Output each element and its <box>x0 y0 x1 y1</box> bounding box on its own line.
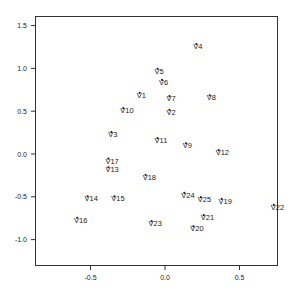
scatter-plot: -1.0-0.50.00.51.01.5 -0.50.00.5 V1V2V3V4… <box>0 0 293 301</box>
data-point: V2 <box>166 108 175 117</box>
data-point: V4 <box>193 42 202 51</box>
point-label: V13 <box>105 165 118 174</box>
data-point: V17 <box>105 157 118 166</box>
data-point: V5 <box>155 67 164 76</box>
data-point: V21 <box>201 213 214 222</box>
data-point: V9 <box>183 141 192 150</box>
data-point: V1 <box>137 91 146 100</box>
data-point: V12 <box>216 148 229 157</box>
data-point: V16 <box>74 216 87 225</box>
point-label: V10 <box>120 106 133 115</box>
point-label: V2 <box>166 108 175 117</box>
y-axis: -1.0-0.50.00.51.01.5 <box>15 22 36 243</box>
data-point: V13 <box>105 165 118 174</box>
data-point: V18 <box>143 173 156 182</box>
point-label: V25 <box>198 195 211 204</box>
point-label: V7 <box>166 94 175 103</box>
y-tick-label: 0.0 <box>17 151 27 158</box>
y-tick-label: -0.5 <box>15 193 27 200</box>
data-point: V11 <box>155 136 168 145</box>
point-label: V21 <box>201 213 214 222</box>
point-label: V19 <box>219 197 232 206</box>
data-point: V22 <box>271 203 284 212</box>
point-label: V11 <box>155 136 168 145</box>
data-point: V7 <box>166 94 175 103</box>
x-tick-label: 0.0 <box>160 274 170 281</box>
data-point: V15 <box>111 194 124 203</box>
point-label: V24 <box>181 191 194 200</box>
data-point: V19 <box>219 197 232 206</box>
data-point: V10 <box>120 106 133 115</box>
data-point: V25 <box>198 195 211 204</box>
point-label: V18 <box>143 173 156 182</box>
x-axis: -0.50.00.5 <box>84 266 244 282</box>
point-label: V15 <box>111 194 124 203</box>
data-point: V6 <box>159 78 168 87</box>
point-label: V17 <box>105 157 118 166</box>
point-label: V3 <box>108 130 117 139</box>
point-label: V16 <box>74 216 87 225</box>
point-label: V8 <box>207 93 216 102</box>
point-label: V4 <box>193 42 202 51</box>
y-tick-label: 0.5 <box>17 108 27 115</box>
point-label: V12 <box>216 148 229 157</box>
point-label: V20 <box>190 224 203 233</box>
point-label: V14 <box>85 194 98 203</box>
x-tick-label: 0.5 <box>235 274 245 281</box>
data-point: V23 <box>149 219 162 228</box>
y-tick-label: 1.0 <box>17 65 27 72</box>
point-label: V1 <box>137 91 146 100</box>
data-point: V8 <box>207 93 216 102</box>
data-point: V20 <box>190 224 203 233</box>
y-tick-label: 1.5 <box>17 22 27 29</box>
data-points: V1V2V3V4V5V6V7V8V9V10V11V12V13V14V15V16V… <box>74 42 284 233</box>
data-point: V14 <box>85 194 98 203</box>
point-label: V5 <box>155 67 164 76</box>
point-label: V9 <box>183 141 192 150</box>
y-tick-label: -1.0 <box>15 236 27 243</box>
point-label: V22 <box>271 203 284 212</box>
x-tick-label: -0.5 <box>84 274 96 281</box>
point-label: V23 <box>149 219 162 228</box>
point-label: V6 <box>159 78 168 87</box>
data-point: V3 <box>108 130 117 139</box>
data-point: V24 <box>181 191 194 200</box>
